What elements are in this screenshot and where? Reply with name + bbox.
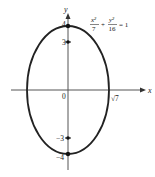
y-axis-label: y (63, 5, 68, 14)
ellipse-diagram: y x 0 4 3 −3 −4 √7 x² 7 + y² 16 = 1 (0, 0, 155, 177)
equation-y-denominator: 16 (109, 25, 117, 33)
vertex-top-point (66, 24, 70, 28)
focus-bottom-point (65, 136, 71, 140)
x-axis-arrow-icon (140, 88, 146, 93)
tick-label-x-sqrt7: √7 (111, 94, 119, 103)
equation-x-denominator: 7 (92, 25, 96, 33)
focus-top-point (65, 40, 71, 44)
equation-y-numerator: y² (108, 16, 115, 24)
tick-label-y-4: 4 (62, 20, 66, 29)
equation-x-numerator: x² (90, 16, 97, 24)
tick-label-y-neg4: −4 (56, 153, 64, 162)
equation-plus: + (101, 21, 105, 29)
y-axis (66, 13, 71, 170)
equation-rhs: = 1 (119, 21, 129, 29)
tick-label-y-neg3: −3 (56, 134, 64, 143)
x-axis-label: x (147, 86, 152, 95)
origin-label: 0 (62, 92, 66, 101)
ellipse-equation: x² 7 + y² 16 = 1 (90, 16, 129, 33)
tick-label-y-3: 3 (62, 38, 66, 47)
vertex-bottom-point (66, 152, 70, 156)
x-axis (11, 88, 146, 93)
